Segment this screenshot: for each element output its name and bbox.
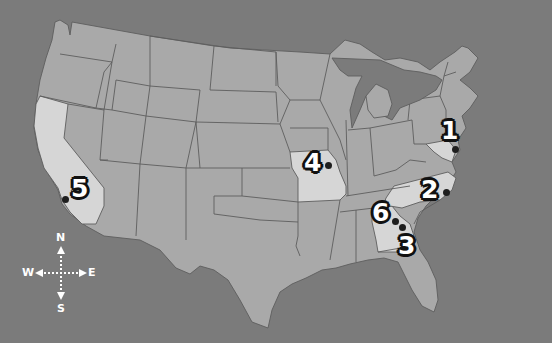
us-map: 1 2 3 4 5 6 N S W E [0, 0, 552, 343]
marker-label-4[interactable]: 4 [304, 150, 321, 175]
marker-dot-1 [452, 146, 459, 153]
marker-label-6[interactable]: 6 [372, 200, 389, 225]
compass-north-label: N [56, 231, 65, 244]
marker-label-1[interactable]: 1 [441, 118, 458, 143]
marker-label-5[interactable]: 5 [71, 176, 88, 201]
marker-dot-6 [392, 218, 399, 225]
compass-west-label: W [22, 266, 34, 279]
marker-dot-3 [399, 224, 406, 231]
marker-label-3[interactable]: 3 [398, 233, 415, 258]
compass-east-label: E [88, 266, 96, 279]
compass-rose: N S W E [18, 230, 102, 314]
marker-dot-4 [325, 162, 332, 169]
compass-south-label: S [57, 302, 65, 315]
marker-dot-5 [62, 196, 69, 203]
marker-label-2[interactable]: 2 [421, 177, 438, 202]
marker-dot-2 [443, 189, 450, 196]
